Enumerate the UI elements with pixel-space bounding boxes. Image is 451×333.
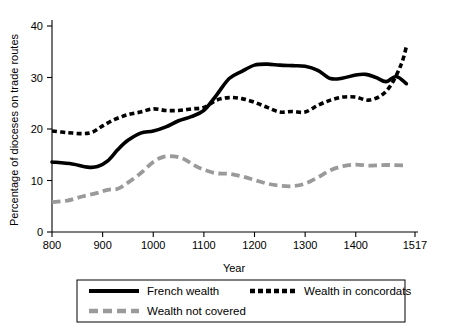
x-axis-tick-labels: 800900100011001200130014001517: [43, 239, 427, 251]
x-tick-label: 1200: [242, 239, 266, 251]
series-wealth-in-concordats: [52, 47, 406, 134]
x-axis-title: Year: [223, 262, 246, 274]
line-chart-svg: 010203040 800900100011001200130014001517…: [0, 0, 451, 333]
legend-item-french-wealth[interactable]: French wealth: [89, 285, 219, 297]
x-tick-label: 900: [93, 239, 111, 251]
legend-item-wealth-not-covered[interactable]: Wealth not covered: [89, 305, 246, 317]
legend-label-0: French wealth: [147, 285, 219, 297]
x-tick-label: 1000: [141, 239, 165, 251]
legend-item-wealth-in-concordats[interactable]: Wealth in concordats: [250, 285, 411, 297]
chart-figure: 010203040 800900100011001200130014001517…: [0, 0, 451, 333]
y-axis-title: Percentage of dioceses on trade routes: [8, 33, 20, 226]
series-french-wealth: [52, 64, 406, 167]
y-axis-tick-labels: 010203040: [31, 20, 43, 238]
y-axis-ticks: [47, 26, 52, 232]
y-tick-label: 20: [31, 123, 43, 135]
x-tick-label: 1300: [293, 239, 317, 251]
y-tick-label: 0: [37, 226, 43, 238]
x-axis-ticks: [52, 232, 415, 237]
y-tick-label: 40: [31, 20, 43, 32]
legend-label-2: Wealth not covered: [147, 305, 246, 317]
legend-label-1: Wealth in concordats: [304, 285, 411, 297]
x-tick-label: 1100: [192, 239, 216, 251]
x-tick-label: 800: [43, 239, 61, 251]
y-tick-label: 10: [31, 175, 43, 187]
chart-legend: French wealth Wealth in concordats Wealt…: [77, 280, 411, 322]
x-tick-label: 1517: [403, 239, 427, 251]
x-tick-label: 1400: [344, 239, 368, 251]
y-tick-label: 30: [31, 72, 43, 84]
